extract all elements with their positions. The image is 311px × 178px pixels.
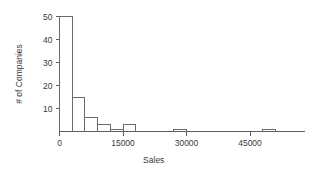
x-axis-tick-label: 45000 (238, 138, 262, 148)
histogram-chart: 10203040500150003000045000Sales# of Comp… (0, 0, 311, 178)
y-axis-tick-label: 10 (43, 104, 53, 114)
x-axis-title: Sales (143, 155, 164, 165)
histogram-bar (60, 17, 73, 132)
y-axis-tick-label: 50 (43, 12, 53, 22)
x-axis-tick-label: 15000 (111, 138, 135, 148)
y-axis-tick-label: 20 (43, 81, 53, 91)
x-axis-tick-label: 30000 (175, 138, 199, 148)
histogram-bar (98, 125, 111, 132)
histogram-bar (123, 125, 136, 132)
y-axis-tick-label: 40 (43, 35, 53, 45)
y-axis-title: # of Companies (14, 44, 24, 104)
y-axis-tick-label: 30 (43, 58, 53, 68)
plot-area: 10203040500150003000045000Sales# of Comp… (0, 0, 311, 178)
x-axis-tick-label: 0 (57, 138, 62, 148)
histogram-bar (85, 118, 98, 132)
histogram-bar (72, 97, 85, 132)
